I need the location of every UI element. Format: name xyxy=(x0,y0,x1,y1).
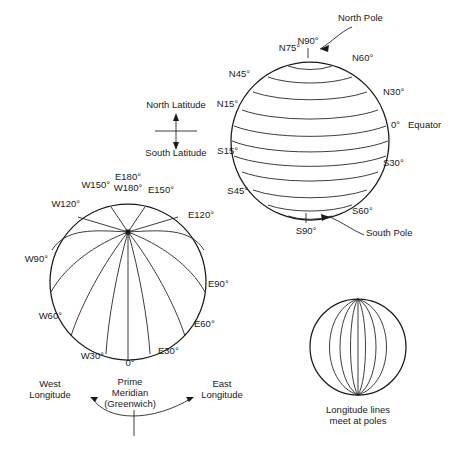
parallel-equator xyxy=(232,141,388,152)
label-n30: N30° xyxy=(383,86,404,97)
label-w60: W60° xyxy=(39,310,63,321)
meridian-w150 xyxy=(78,217,128,232)
meridian-w30 xyxy=(106,232,128,354)
longitude-globe: E180° W180° W150° E150° W120° E120° W90°… xyxy=(25,171,229,368)
label-north-latitude: North Latitude xyxy=(146,99,206,110)
longitude-pole-dot xyxy=(126,230,131,235)
label-w180: W180° xyxy=(114,182,143,193)
label-west-longitude-line2: Longitude xyxy=(29,389,71,400)
label-w90: W90° xyxy=(25,253,49,264)
label-e30: E30° xyxy=(158,345,179,356)
label-pole-caption-line2: meet at poles xyxy=(329,415,386,426)
label-0-equator-deg: 0° xyxy=(391,119,400,130)
label-w120: W120° xyxy=(51,198,80,209)
south-pole-arrowhead xyxy=(321,214,330,221)
label-n60: N60° xyxy=(352,52,373,63)
meridian-w90 xyxy=(51,232,128,292)
parallel-s45 xyxy=(253,190,367,198)
label-north-pole: North Pole xyxy=(338,12,383,23)
label-prime-meridian-line2: Meridian xyxy=(112,387,148,398)
parallel-n60 xyxy=(268,77,352,83)
latitude-globe-outline xyxy=(231,62,389,220)
label-n90: N90° xyxy=(297,35,318,46)
latitude-direction-key: North Latitude South Latitude xyxy=(145,99,206,158)
parallel-s30 xyxy=(242,172,378,181)
label-n15: N15° xyxy=(217,98,238,109)
parallel-n75 xyxy=(288,66,332,70)
meridian-w180 xyxy=(111,207,128,232)
label-w30: W30° xyxy=(81,350,105,361)
label-n75: N75° xyxy=(279,42,300,53)
label-east-longitude-line2: Longitude xyxy=(201,389,243,400)
pole-meridian-e1 xyxy=(358,299,366,395)
label-s90: S90° xyxy=(296,225,317,236)
parallel-n45 xyxy=(253,92,367,100)
label-equator: Equator xyxy=(408,119,441,130)
label-s15: S15° xyxy=(217,145,238,156)
parallel-s15 xyxy=(234,156,386,166)
pole-meridian-w2 xyxy=(340,299,358,395)
label-e60: E60° xyxy=(194,318,215,329)
meridian-e180 xyxy=(128,207,145,232)
label-w150: W150° xyxy=(81,179,110,190)
label-prime-meridian-line1: Prime xyxy=(118,376,143,387)
meridian-e90 xyxy=(128,232,205,292)
meridian-e60 xyxy=(128,232,185,336)
diagram-canvas: North Pole N90° N75° N60° N45° N30° N15°… xyxy=(0,0,459,451)
parallel-n15 xyxy=(234,126,386,136)
label-south-pole: South Pole xyxy=(366,227,412,238)
latitude-globe: North Pole N90° N75° N60° N45° N30° N15°… xyxy=(217,12,442,238)
pole-convergence-globe: Longitude lines meet at poles xyxy=(310,299,406,426)
pole-meridian-w3 xyxy=(330,299,359,395)
label-n45: N45° xyxy=(229,68,250,79)
label-e90: E90° xyxy=(208,278,229,289)
meridian-e30 xyxy=(128,232,150,354)
south-pole-leader xyxy=(330,217,364,235)
pole-meridian-e2 xyxy=(358,299,376,395)
parallel-n30 xyxy=(242,110,378,119)
meridian-w60 xyxy=(71,232,128,336)
label-e180: E180° xyxy=(115,171,141,182)
label-pole-caption-line1: Longitude lines xyxy=(326,404,390,415)
pole-meridian-e3 xyxy=(358,299,387,395)
longitude-direction-key: Prime Meridian (Greenwich) West Longitud… xyxy=(29,376,243,436)
pole-meridian-w1 xyxy=(351,299,359,395)
label-west-longitude-line1: West xyxy=(39,378,61,389)
label-prime-meridian-0: 0° xyxy=(125,357,134,368)
north-pole-leader xyxy=(320,27,352,49)
label-s60: S60° xyxy=(352,205,373,216)
label-e120: E120° xyxy=(188,209,214,220)
parallel-s60 xyxy=(268,205,352,211)
latitude-longitude-diagram: North Pole N90° N75° N60° N45° N30° N15°… xyxy=(0,0,459,451)
meridian-e150 xyxy=(128,217,178,232)
label-east-longitude-line1: East xyxy=(212,378,231,389)
label-s45: S45° xyxy=(227,185,248,196)
arrow-up-icon xyxy=(173,113,179,121)
label-e150: E150° xyxy=(148,184,174,195)
label-s30: S30° xyxy=(383,157,404,168)
label-prime-meridian-line3: (Greenwich) xyxy=(104,398,156,409)
